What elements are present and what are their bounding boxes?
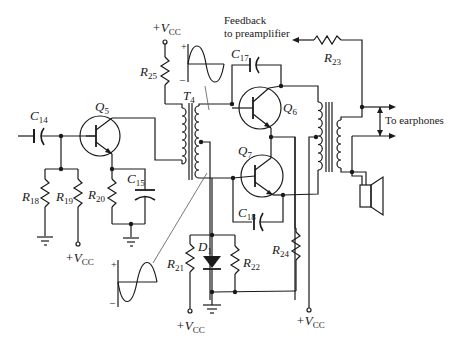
waveform-bottom: + – xyxy=(109,173,207,308)
r18-label: R18 xyxy=(21,189,39,206)
earphone-output: To earphones xyxy=(352,104,444,139)
r25-label: R23 xyxy=(323,50,341,67)
resistor-r25: R23 xyxy=(292,36,341,67)
to-earphones-label: To earphones xyxy=(385,114,444,126)
feedback-label-2: to preamplifier xyxy=(224,27,290,39)
resistor-r22: R22 xyxy=(231,235,260,292)
svg-text:–: – xyxy=(109,297,116,308)
transistor-q6: Q6 xyxy=(232,87,297,129)
r22-label: R22 xyxy=(242,255,260,272)
resistor-r18: R18 xyxy=(21,179,49,236)
capacitor-c15: C15 xyxy=(127,171,155,224)
transistor-q7: Q7 xyxy=(233,143,283,197)
r21-label: R21 xyxy=(166,256,184,273)
vcc-r19: +VCC xyxy=(65,250,94,267)
ground-r18 xyxy=(37,237,53,245)
vcc-r21: +VCC xyxy=(176,318,205,335)
resistor-r23: R25 xyxy=(139,44,169,104)
c14-label: C14 xyxy=(30,108,48,125)
c18-label: C18 xyxy=(238,205,256,222)
c15-label: C15 xyxy=(127,171,145,188)
capacitor-c17: C17 xyxy=(231,46,281,104)
transformer-t4: T4 xyxy=(182,88,199,180)
r23-label: R25 xyxy=(139,64,157,81)
svg-text:–: – xyxy=(179,74,186,85)
q6-label: Q6 xyxy=(283,100,297,117)
resistor-r24: R24 xyxy=(271,228,300,291)
resistor-r19: R19 xyxy=(55,179,82,246)
speaker xyxy=(360,177,383,215)
r20-label: R20 xyxy=(87,187,105,204)
feedback-label-1: Feedback xyxy=(224,14,267,26)
circuit-diagram: C14 Q5 R18 R19 +VCC xyxy=(0,0,457,349)
ground-emitter xyxy=(123,238,139,246)
resistor-r21: R21 xyxy=(166,235,194,313)
resistor-r20: R20 xyxy=(87,169,116,224)
ground-d1 xyxy=(203,305,221,313)
q5-label: Q5 xyxy=(95,99,109,116)
r24-label: R24 xyxy=(271,242,289,259)
t4-label: T4 xyxy=(183,88,195,105)
transistor-q5: Q5 xyxy=(80,99,120,156)
output-transformer xyxy=(318,102,341,172)
diode-d1: D1 xyxy=(197,235,221,292)
capacitor-c18: C18 xyxy=(233,178,283,231)
q7-label: Q7 xyxy=(238,143,252,160)
svg-text:+: + xyxy=(181,41,187,52)
capacitor-c14: C14 xyxy=(30,108,96,145)
r19-label: R19 xyxy=(55,189,73,206)
vcc-top: +VCC xyxy=(152,20,181,37)
vcc-output: +VCC xyxy=(296,313,325,330)
c17-label: C17 xyxy=(231,46,249,63)
svg-text:+: + xyxy=(111,259,117,270)
